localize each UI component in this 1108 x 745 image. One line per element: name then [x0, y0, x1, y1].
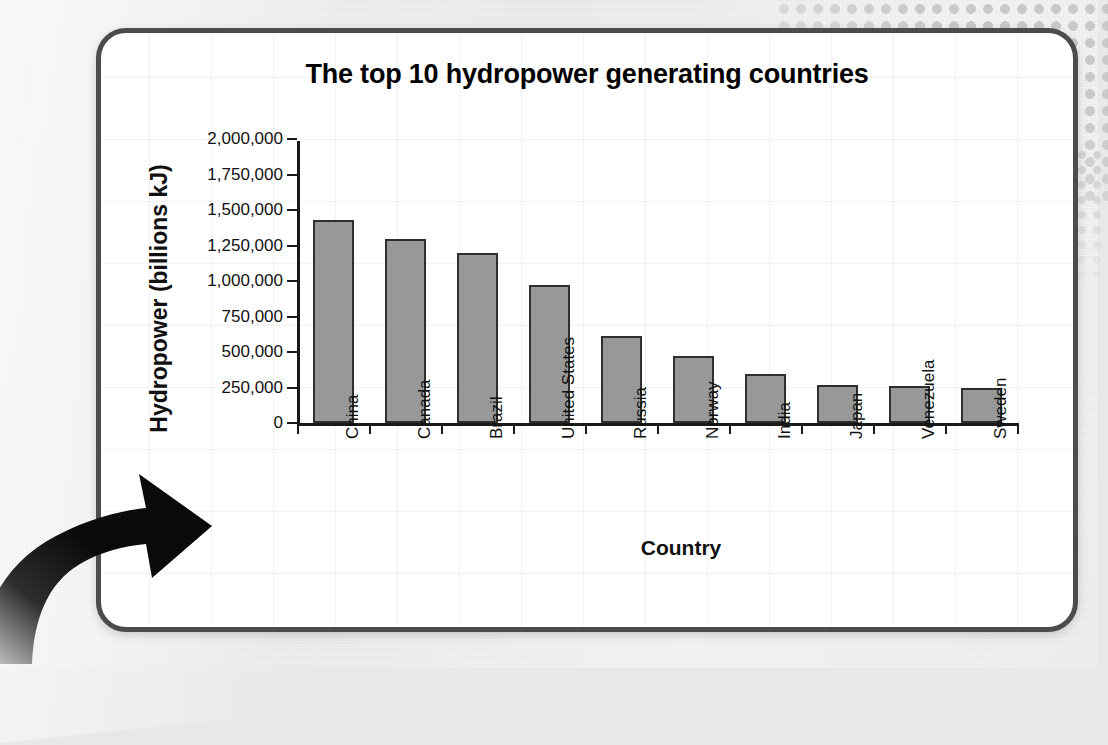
plot-area: 0250,000500,000750,0001,000,0001,250,000…: [297, 115, 1017, 425]
x-axis-category-label: China: [343, 395, 363, 439]
y-axis-tick-label: 2,000,000: [113, 129, 297, 149]
y-axis-tick-mark: [287, 174, 297, 176]
x-axis-category-label: Canada: [415, 379, 435, 439]
bar-slot: [585, 115, 657, 423]
y-axis-tick-label: 500,000: [113, 342, 297, 362]
bar-slot: [729, 115, 801, 423]
x-axis-category-label: Russia: [631, 387, 651, 439]
x-axis-tick-mark: [1017, 423, 1019, 434]
bar-slot: [801, 115, 873, 423]
x-axis-tick-mark: [729, 423, 731, 434]
bar: [313, 220, 354, 423]
y-axis-tick-label: 250,000: [113, 378, 297, 398]
y-axis-tick-mark: [287, 316, 297, 318]
bar-series: [297, 115, 1017, 423]
x-axis-tick-mark: [945, 423, 947, 434]
x-axis-tick-mark: [657, 423, 659, 434]
chart-panel: The top 10 hydropower generating countri…: [96, 28, 1078, 632]
x-axis-category-label: United States: [559, 337, 579, 439]
y-axis-tick-mark: [287, 138, 297, 140]
x-axis-category-label: India: [775, 402, 795, 439]
y-axis-tick-label: 0: [113, 413, 297, 433]
y-axis-tick-mark: [287, 351, 297, 353]
x-axis-tick-mark: [369, 423, 371, 434]
x-axis-title: Country: [401, 536, 961, 560]
y-axis-title: Hydropower (billions kJ): [146, 149, 173, 449]
x-axis-tick-mark: [441, 423, 443, 434]
x-axis-tick-mark: [297, 423, 299, 434]
y-axis-tick-label: 1,750,000: [113, 165, 297, 185]
x-axis-category-label: Japan: [847, 393, 867, 439]
y-axis-tick-label: 1,250,000: [113, 236, 297, 256]
y-axis-tick-mark: [287, 245, 297, 247]
x-axis-tick-mark: [873, 423, 875, 434]
x-axis-category-label: Sweden: [991, 378, 1011, 439]
x-axis-category-label: Brazil: [487, 396, 507, 439]
y-axis-tick-mark: [287, 280, 297, 282]
y-axis-tick-mark: [287, 422, 297, 424]
x-axis-category-label: Venezuela: [919, 360, 939, 439]
chart-title: The top 10 hydropower generating countri…: [101, 59, 1073, 90]
y-axis-tick-mark: [287, 209, 297, 211]
bar-slot: [441, 115, 513, 423]
x-axis-tick-mark: [585, 423, 587, 434]
x-axis-tick-mark: [801, 423, 803, 434]
y-axis-tick-label: 1,000,000: [113, 271, 297, 291]
x-axis-tick-mark: [513, 423, 515, 434]
bar-slot: [657, 115, 729, 423]
bar-slot: [297, 115, 369, 423]
bar-slot: [369, 115, 441, 423]
y-axis-tick-label: 1,500,000: [113, 200, 297, 220]
y-axis-tick-mark: [287, 387, 297, 389]
x-axis-category-label: Norway: [703, 381, 723, 439]
y-axis-tick-label: 750,000: [113, 307, 297, 327]
